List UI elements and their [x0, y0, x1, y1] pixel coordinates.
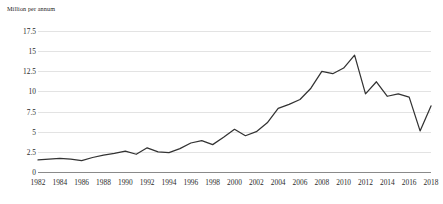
axis-baseline [38, 172, 431, 173]
y-axis-tick-label: 15 [2, 47, 36, 56]
x-axis-tick-label: 1982 [31, 178, 46, 187]
y-axis-tick-label: 0 [2, 168, 36, 177]
x-axis-tick-label: 1996 [183, 178, 198, 187]
x-axis-tick-label: 1988 [96, 178, 111, 187]
x-axis-tick-label: 2018 [424, 178, 439, 187]
chart-page: Million per annum 02.557.51012.51517.5 1… [0, 0, 443, 204]
x-axis-tick-label: 2004 [271, 178, 286, 187]
x-axis-tick-label: 2010 [336, 178, 351, 187]
series-line [38, 55, 431, 161]
x-axis-tick-label: 2014 [380, 178, 395, 187]
y-axis-tick-label: 10 [2, 87, 36, 96]
x-axis-tick-label: 1994 [162, 178, 177, 187]
plot-area [38, 31, 431, 172]
y-axis-title: Million per annum [7, 5, 55, 12]
x-axis-tick-label: 2016 [402, 178, 417, 187]
x-axis-tick-label: 2008 [314, 178, 329, 187]
y-axis-tick-label: 17.5 [2, 27, 36, 36]
x-axis-tick-labels: 1982198419861988199019921994199619982000… [38, 178, 431, 194]
x-axis-tick-label: 2000 [227, 178, 242, 187]
x-axis-tick-label: 2006 [293, 178, 308, 187]
y-axis-tick-labels: 02.557.51012.51517.5 [0, 31, 36, 172]
y-axis-tick-label: 7.5 [2, 107, 36, 116]
series-line-chart [38, 31, 431, 172]
y-axis-tick-label: 5 [2, 127, 36, 136]
x-axis-tick-label: 1990 [118, 178, 133, 187]
y-axis-tick-label: 2.5 [2, 147, 36, 156]
x-axis-tick-label: 1984 [52, 178, 67, 187]
y-axis-tick-label: 12.5 [2, 67, 36, 76]
x-axis-tick-label: 2002 [249, 178, 264, 187]
x-axis-tick-label: 1986 [74, 178, 89, 187]
x-axis-tick-label: 1992 [140, 178, 155, 187]
x-axis-tick-label: 1998 [205, 178, 220, 187]
x-axis-tick-label: 2012 [358, 178, 373, 187]
